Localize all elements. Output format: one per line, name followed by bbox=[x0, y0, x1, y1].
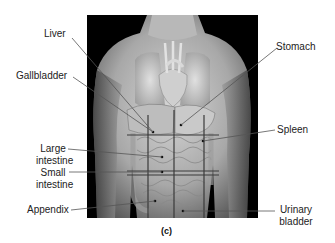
leader-large-intestine bbox=[68, 149, 162, 157]
label-large-intestine-line1: Large bbox=[36, 143, 70, 155]
leader-stomach bbox=[181, 48, 277, 125]
label-large-intestine: Large intestine bbox=[36, 143, 70, 167]
label-stomach: Stomach bbox=[276, 41, 315, 53]
label-spleen: Spleen bbox=[277, 124, 308, 136]
label-appendix: Appendix bbox=[27, 204, 69, 216]
label-urinary-bladder-line1: Urinary bbox=[276, 204, 316, 216]
label-urinary-bladder: Urinary bladder bbox=[276, 204, 316, 228]
leader-appendix bbox=[71, 201, 155, 210]
figure-caption: (c) bbox=[161, 226, 172, 236]
label-small-intestine: Small intestine bbox=[36, 167, 70, 191]
label-gallbladder: Gallbladder bbox=[16, 70, 67, 82]
label-urinary-bladder-line2: bladder bbox=[276, 216, 316, 228]
anatomy-figure: Liver Gallbladder Large intestine Small … bbox=[0, 0, 335, 243]
label-large-intestine-line2: intestine bbox=[36, 155, 70, 167]
leader-spleen bbox=[203, 130, 275, 141]
label-liver: Liver bbox=[44, 28, 66, 40]
label-small-intestine-line1: Small bbox=[36, 167, 70, 179]
label-small-intestine-line2: intestine bbox=[36, 179, 70, 191]
